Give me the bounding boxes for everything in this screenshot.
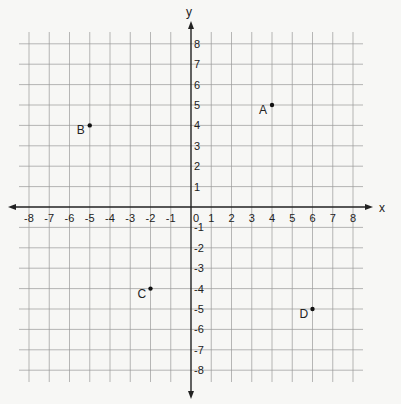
x-tick-label: 5 (289, 212, 295, 224)
y-tick-label: 5 (194, 99, 200, 111)
point-dot (310, 307, 314, 311)
y-tick-label: -4 (194, 283, 204, 295)
x-tick-label: -6 (65, 212, 75, 224)
y-tick-label: 2 (194, 160, 200, 172)
y-tick-label: -3 (194, 262, 204, 274)
x-tick-label: -4 (105, 212, 115, 224)
x-tick-label: 6 (309, 212, 315, 224)
x-tick-label: -1 (166, 212, 176, 224)
y-tick-label: -6 (194, 323, 204, 335)
point-label: B (77, 123, 85, 137)
coordinate-plane: x y -8-7-6-5-4-3-2-1012345678 87654321-1… (0, 0, 401, 404)
x-tick-label: -7 (44, 212, 54, 224)
y-axis-up-arrow-icon (188, 21, 194, 29)
y-tick-label: 6 (194, 79, 200, 91)
x-tick-label: 8 (350, 212, 356, 224)
x-tick-label: 3 (249, 212, 255, 224)
x-axis-left-arrow-icon (8, 204, 16, 210)
y-axis-label: y (186, 5, 192, 19)
x-tick-labels: -8-7-6-5-4-3-2-1012345678 (24, 212, 356, 224)
x-tick-label: -5 (85, 212, 95, 224)
x-axis-label: x (379, 201, 385, 215)
point-dot (88, 123, 92, 127)
x-tick-label: 1 (208, 212, 214, 224)
y-tick-label: 7 (194, 58, 200, 70)
y-tick-label: -8 (194, 364, 204, 376)
point-label: A (259, 103, 267, 117)
y-tick-label: 8 (194, 38, 200, 50)
x-axis-right-arrow-icon (365, 204, 373, 210)
y-tick-label: -5 (194, 303, 204, 315)
point-label: C (138, 287, 147, 301)
y-axis-down-arrow-icon (188, 391, 194, 399)
y-tick-label: -1 (194, 221, 204, 233)
x-tick-label: -2 (146, 212, 156, 224)
point-label: D (300, 307, 309, 321)
x-tick-label: 7 (330, 212, 336, 224)
point-dot (148, 286, 152, 290)
x-tick-label: -3 (125, 212, 135, 224)
y-tick-label: -2 (194, 242, 204, 254)
point-dot (270, 103, 274, 107)
y-tick-label: 4 (194, 119, 200, 131)
x-tick-label: 2 (228, 212, 234, 224)
y-tick-label: 1 (194, 181, 200, 193)
x-tick-label: -8 (24, 212, 34, 224)
y-tick-label: -7 (194, 344, 204, 356)
x-tick-label: 4 (269, 212, 275, 224)
y-tick-label: 3 (194, 140, 200, 152)
